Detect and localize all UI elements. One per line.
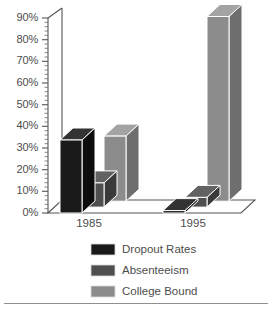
legend-swatch-dropout-rates: [91, 244, 115, 255]
ytick-label-30: 30%: [2, 141, 38, 153]
ytick-label-70: 70%: [2, 54, 38, 66]
legend-swatch-absenteeism: [91, 265, 115, 276]
ytick-label-0: 0%: [2, 206, 38, 218]
ytick-label-10: 10%: [2, 184, 38, 196]
y-major-ticks: [42, 18, 48, 213]
ytick-label-50: 50%: [2, 98, 38, 110]
bar-chart-graphic: [0, 0, 272, 309]
legend-label-college-bound: College Bound: [122, 285, 197, 297]
ytick-label-90: 90%: [2, 11, 38, 23]
chart-figure: 90% 80% 70% 60% 50% 40% 30% 20% 10% 0% 1…: [0, 0, 272, 309]
ytick-label-60: 60%: [2, 76, 38, 88]
bar-1985-dropout-rates: [60, 128, 95, 213]
xtick-label-1985: 1985: [59, 217, 119, 229]
legend-label-absenteeism: Absenteeism: [122, 264, 188, 276]
legend-label-dropout-rates: Dropout Rates: [122, 243, 196, 255]
ytick-label-40: 40%: [2, 119, 38, 131]
bar-1995-college-bound: [207, 5, 242, 202]
ytick-label-20: 20%: [2, 163, 38, 175]
legend-swatches: [91, 244, 115, 297]
xtick-label-1995: 1995: [163, 217, 223, 229]
legend-swatch-college-bound: [91, 286, 115, 297]
ytick-label-80: 80%: [2, 33, 38, 45]
